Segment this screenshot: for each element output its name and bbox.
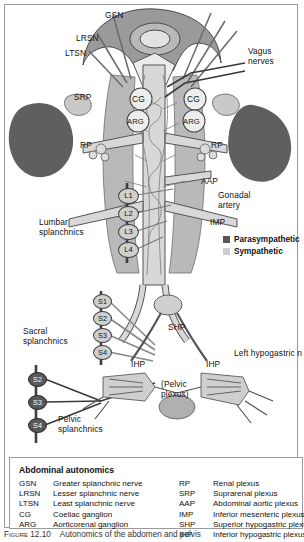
parasympathetic-label: Parasympathetic	[234, 235, 300, 244]
label-vagus-nerves: Vagus nerves	[248, 47, 274, 66]
legend-desc: Superior hypogastric plexus	[213, 520, 304, 530]
ganglion-l4: L4	[118, 242, 139, 258]
ganglion-s4: S4	[93, 345, 112, 360]
caption-text: Autonomics of the abdomen and pelvis	[60, 530, 201, 539]
legend-row: CG Coeliac ganglion	[19, 510, 179, 520]
label-gonadal-artery: Gonadal artery	[218, 191, 250, 210]
pelvic-ganglion-s3: S3	[28, 395, 47, 410]
legend-row: AAP Abdominal aortic plexus	[179, 499, 304, 509]
caption-number: Figure 12.10	[4, 530, 51, 539]
label-ihp-left: IHP	[131, 360, 145, 370]
label-lrsn: LRSN	[76, 34, 99, 44]
label-rp-left: RP	[80, 141, 92, 151]
suprarenal-gland-right	[213, 94, 240, 115]
ganglion-s1: S1	[93, 294, 112, 309]
abbreviation-legend: Abdominal autonomics GSN Greater splanch…	[9, 457, 303, 529]
label-arg-right: ARG	[183, 117, 200, 127]
label-cg-right: CG	[187, 95, 200, 105]
sacral-splanchnic-rami	[109, 301, 155, 361]
pelvic-ganglion-s4: S4	[28, 418, 47, 433]
key-item-parasympathetic: Parasympathetic	[223, 235, 300, 244]
sympathetic-label: Sympathetic	[234, 247, 283, 256]
legend-row: RP Renal plexus	[179, 479, 304, 489]
legend-abbr: RP	[179, 479, 213, 489]
legend-desc: Coeliac ganglion	[53, 510, 179, 520]
legend-row: SRP Suprarenal plexus	[179, 489, 304, 499]
legend-desc: Renal plexus	[213, 479, 304, 489]
label-aap: AAP	[201, 177, 218, 187]
legend-abbr: AAP	[179, 499, 213, 509]
pelvic-ganglion-s2: S2	[28, 372, 47, 387]
figure-container: GSN LRSN LTSN Vagus nerves SRP RP RP CG …	[0, 0, 304, 542]
legend-abbr: ARG	[19, 520, 53, 530]
legend-row: SHP Superior hypogastric plexus	[179, 520, 304, 530]
kidney-right	[228, 105, 291, 182]
label-pelvic-plexus: (Pelvic plexus)	[161, 380, 189, 399]
figure-frame: GSN LRSN LTSN Vagus nerves SRP RP RP CG …	[4, 4, 298, 528]
label-left-hypogastric-nerve: Left hypogastric n	[234, 349, 302, 359]
legend-abbr: IMP	[179, 510, 213, 520]
legend-row: ARG Aorticorenal ganglion	[19, 520, 179, 530]
legend-abbr: GSN	[19, 479, 53, 489]
label-pelvic-splanchnics: Pelvic splanchnics	[58, 415, 103, 434]
legend-abbr: CG	[19, 510, 53, 520]
legend-desc: Lesser splanchnic nerve	[53, 489, 179, 499]
label-shp: SHP	[168, 323, 186, 333]
ganglion-l2: L2	[118, 206, 139, 222]
figure-caption: Figure 12.10Autonomics of the abdomen an…	[4, 530, 298, 539]
legend-desc: Greater splanchnic nerve	[53, 479, 179, 489]
color-key: Parasympathetic Sympathetic	[223, 235, 300, 259]
label-srp: SRP	[74, 93, 92, 103]
sympathetic-swatch	[223, 248, 230, 255]
label-sacral-splanchnics: Sacral splanchnics	[23, 327, 68, 346]
ganglion-s3: S3	[93, 328, 112, 343]
kidney-left	[9, 103, 73, 177]
superior-hypogastric-plexus	[154, 295, 182, 315]
legend-desc: Inferior mesenteric plexus	[213, 510, 304, 520]
legend-row: GSN Greater splanchnic nerve	[19, 479, 179, 489]
ganglion-l3: L3	[118, 224, 139, 240]
legend-abbr: LRSN	[19, 489, 53, 499]
inferior-hypogastric-plexus-right	[201, 373, 249, 405]
inferior-hypogastric-plexus-left	[103, 373, 155, 401]
ganglion-l1: L1	[118, 188, 139, 204]
legend-desc: Abdominal aortic plexus	[213, 499, 304, 509]
legend-desc: Suprarenal plexus	[213, 489, 304, 499]
label-ihp-right: IHP	[206, 360, 220, 370]
key-item-sympathetic: Sympathetic	[223, 247, 300, 256]
legend-desc: Least splanchnic nerve	[53, 499, 179, 509]
label-gsn: GSN	[105, 11, 123, 21]
parasympathetic-swatch	[223, 236, 230, 243]
ganglion-s2: S2	[93, 311, 112, 326]
label-cg-left: CG	[132, 95, 145, 105]
label-ltsn: LTSN	[65, 49, 86, 59]
legend-title: Abdominal autonomics	[19, 465, 293, 475]
legend-row: IMP Inferior mesenteric plexus	[179, 510, 304, 520]
label-lumbar-splanchnics: Lumbar splanchnics	[39, 218, 84, 237]
legend-desc: Aorticorenal ganglion	[53, 520, 179, 530]
legend-row: LRSN Lesser splanchnic nerve	[19, 489, 179, 499]
label-arg-left: ARG	[127, 117, 144, 127]
legend-row: LTSN Least splanchnic nerve	[19, 499, 179, 509]
legend-abbr: SHP	[179, 520, 213, 530]
label-imp: IMP	[210, 218, 225, 228]
label-rp-right: RP	[211, 141, 223, 151]
legend-abbr: LTSN	[19, 499, 53, 509]
legend-abbr: SRP	[179, 489, 213, 499]
